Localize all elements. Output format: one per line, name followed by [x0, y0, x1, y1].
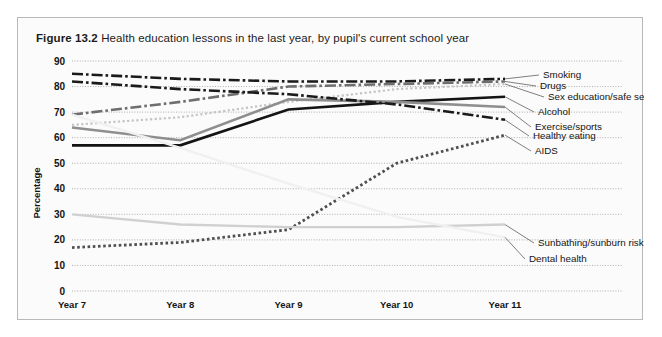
legend-label-drugs: Drugs: [540, 80, 566, 91]
line-chart: 0102030405060708090 Year 7Year 8Year 9Ye…: [18, 18, 644, 321]
legend-label-aids: AIDS: [535, 145, 558, 156]
series-line-aids: [72, 135, 505, 247]
y-tick-label: 0: [59, 286, 65, 297]
x-axis-ticks: Year 7Year 8Year 9Year 10Year 11: [58, 299, 522, 310]
y-tick-label: 30: [54, 209, 66, 220]
y-axis-ticks: 0102030405060708090: [54, 56, 66, 297]
legend-label-sunbathing-sunburn-risks: Sunbathing/sunburn risks: [538, 237, 644, 248]
series-line-dental-health: [72, 115, 505, 238]
legend-label-sex-education-safe-sex: Sex education/safe sex: [548, 91, 644, 102]
leader-line: [505, 120, 529, 136]
chart-plot-area: 0102030405060708090 Year 7Year 8Year 9Ye…: [18, 18, 644, 321]
y-axis-title: Percentage: [31, 167, 42, 218]
x-tick-label-1: Year 8: [166, 299, 194, 310]
y-tick-label: 90: [54, 56, 66, 67]
y-tick-label: 20: [54, 234, 66, 245]
legend-label-alcohol: Alcohol: [538, 106, 570, 117]
leader-line: [505, 107, 531, 127]
series-group: [72, 74, 505, 248]
leader-line: [505, 75, 539, 79]
legend-label-healthy-eating: Healthy eating: [533, 130, 596, 141]
y-tick-label: 50: [54, 158, 66, 169]
y-tick-label: 40: [54, 183, 66, 194]
legend-group: SmokingDrugsSex education/safe sexAlcoho…: [529, 69, 644, 264]
x-tick-label-3: Year 10: [380, 299, 413, 310]
x-tick-label-4: Year 11: [489, 299, 522, 310]
x-tick-label-0: Year 7: [58, 299, 86, 310]
y-tick-label: 80: [54, 81, 66, 92]
leader-line: [505, 84, 544, 97]
legend-label-dental-health: Dental health: [529, 253, 587, 264]
leader-line: [505, 97, 534, 112]
y-tick-label: 60: [54, 132, 66, 143]
legend-label-smoking: Smoking: [543, 69, 581, 80]
legend-leader-lines: [505, 75, 544, 259]
figure-container: Figure 13.2 Health education lessons in …: [17, 17, 643, 320]
leader-line: [505, 237, 525, 259]
y-tick-label: 70: [54, 107, 66, 118]
y-tick-label: 10: [54, 260, 66, 271]
x-tick-label-2: Year 9: [275, 299, 303, 310]
series-line-smoking: [72, 74, 505, 82]
